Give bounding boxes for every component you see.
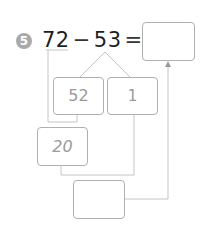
answer-box[interactable] [142,22,195,61]
equals-sign: = [125,28,143,52]
intermediate-box[interactable]: 20 [37,127,88,166]
equation: 72−53= [42,28,146,52]
problem-number-badge: 5 [16,33,32,49]
split-left-box[interactable]: 52 [53,77,104,115]
minus-sign: − [73,28,91,52]
final-sum-box[interactable] [73,180,125,219]
arrow-up-icon [165,61,171,67]
subtrahend: 53 [94,28,122,52]
minuend: 72 [42,28,70,52]
split-right-box[interactable]: 1 [107,77,158,115]
